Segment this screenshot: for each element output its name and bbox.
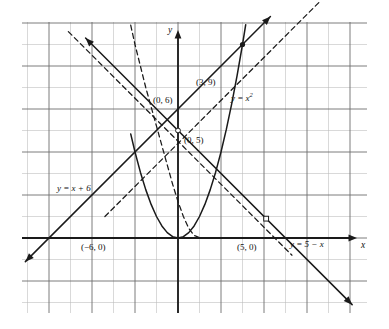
annotation-label: y = 5 − x [290,240,324,249]
annotation-label: (5, 0) [237,243,257,252]
annotation-label: y = x + 6 [57,184,91,193]
y-axis-label: y [168,26,172,36]
annotation-label: (0, 5) [184,136,204,145]
figure-background [0,0,389,329]
annotation-label: (3, 9) [196,78,216,87]
annotation-label: (−6, 0) [81,243,106,252]
point-marker [176,128,181,133]
x-axis-label: x [361,241,365,251]
graph-figure [0,0,389,329]
point-marker [240,42,245,47]
annotation-label: y = x2 [231,92,253,103]
point-marker [264,216,269,221]
annotation-label: (0, 6) [153,96,173,105]
